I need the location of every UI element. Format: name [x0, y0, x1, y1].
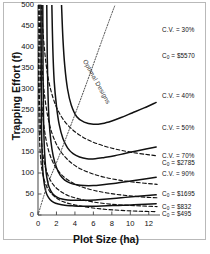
y-tick-label: 400: [8, 43, 34, 51]
y-tick-label: 350: [8, 64, 34, 72]
y-tick-label: 250: [8, 106, 34, 114]
y-tick-label: 150: [8, 148, 34, 156]
x-tick-label: 4: [67, 220, 83, 228]
y-tick-label: 0: [8, 211, 34, 219]
series-curve: [39, 5, 157, 198]
series-curve: [38, 47, 157, 212]
annotation-c5570: C0 = $5570: [162, 52, 195, 60]
y-tick-label: 300: [8, 85, 34, 93]
annotation-cv90: C.V. = 90%: [162, 170, 194, 177]
x-tick-label: 10: [122, 220, 138, 228]
annotation-c1695: C0 = $1695: [162, 190, 195, 198]
y-tick-label: 450: [8, 22, 34, 30]
y-tick-label: 200: [8, 127, 34, 135]
annotation-cv50: C.V. = 50%: [162, 124, 194, 131]
x-tick-label: 8: [104, 220, 120, 228]
x-tick-label: 12: [141, 220, 157, 228]
y-axis-title: Trapping Effort (f): [10, 36, 22, 156]
annotation-c495: C0 = $495: [162, 210, 191, 218]
chart-figure: Trapping Effort (f) Plot Size (ha) 50045…: [0, 0, 210, 254]
axis-ticks: [38, 5, 149, 215]
annotation-c2785: C0 = $2785: [162, 159, 195, 167]
series-curve: [40, 5, 157, 184]
y-tick-label: 100: [8, 169, 34, 177]
x-tick-label: 0: [30, 220, 46, 228]
x-tick-label: 2: [48, 220, 64, 228]
annotation-cv40: C.V. = 40%: [162, 92, 194, 99]
x-tick-label: 6: [85, 220, 101, 228]
y-tick-label: 50: [8, 190, 34, 198]
series-curve: [38, 5, 115, 215]
y-tick-label: 500: [8, 1, 34, 9]
series-curve: [52, 5, 156, 159]
curve-group: [38, 5, 157, 215]
series-curve: [43, 5, 156, 200]
annotation-cv30: C.V. = 30%: [162, 26, 194, 33]
x-axis-title: Plot Size (ha): [36, 233, 176, 245]
